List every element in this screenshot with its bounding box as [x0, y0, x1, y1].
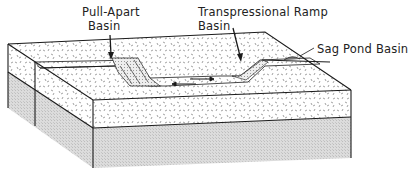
- pull-apart-label-line1: Pull-Apart: [82, 6, 140, 18]
- transpressional-label-line2: Basin: [198, 20, 230, 32]
- transpressional-label-line1: Transpressional Ramp: [198, 6, 328, 18]
- sag-pond-leader: [300, 48, 314, 56]
- sag-pond-label: Sag Pond Basin: [317, 43, 408, 55]
- pull-apart-label-line2: Basin: [88, 20, 120, 32]
